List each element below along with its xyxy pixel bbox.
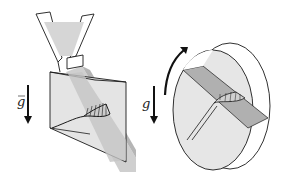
gravity-label-right: g [142, 96, 150, 111]
hopper-chute-panel [18, 12, 136, 172]
rotating-drum-panel [150, 43, 270, 170]
drum-gravity-arrow-head-icon [150, 116, 158, 124]
gravity-label-left: g [17, 94, 25, 109]
hopper-neck [58, 62, 60, 72]
hopper-outlet [67, 55, 83, 69]
diagram-canvas [0, 0, 287, 180]
gravity-arrow-head-icon [24, 116, 32, 124]
